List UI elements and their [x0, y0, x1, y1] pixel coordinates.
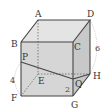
label-B: B [11, 39, 18, 49]
label-A: A [34, 9, 42, 19]
arc-PF [15, 62, 22, 96]
label-P: P [22, 52, 28, 62]
cube-svg: A D B C P E H Q F G 6 4 2 [0, 0, 109, 112]
label-D: D [87, 9, 94, 19]
label-H: H [93, 71, 101, 81]
measure-QG: 2 [65, 85, 70, 94]
label-G: G [71, 100, 78, 110]
label-E: E [38, 76, 45, 86]
cube-diagram: A D B C P E H Q F G 6 4 2 [0, 0, 109, 112]
measure-DH: 6 [95, 44, 100, 53]
label-F: F [11, 93, 17, 103]
measure-PF: 4 [10, 76, 15, 85]
label-C: C [74, 42, 81, 52]
label-Q: Q [75, 79, 82, 89]
